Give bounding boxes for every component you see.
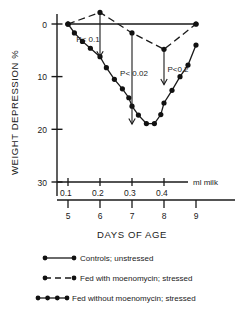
legend-item-with-moenomycin: Fed with moenomycin; stressed: [43, 274, 193, 283]
y-tick-label-0: 0: [42, 20, 47, 30]
milk-tick-label-0.1: 0.1: [60, 188, 72, 198]
milk-tick-label-0.3: 0.3: [124, 188, 136, 198]
pvalue-label-3: P<0.2: [167, 65, 189, 74]
data-point: [136, 113, 141, 118]
data-point: [112, 77, 117, 82]
data-point: [104, 65, 109, 70]
legend-marker-4: [65, 296, 70, 301]
pvalue-label-2: P< 0.02: [120, 69, 148, 78]
data-point: [120, 86, 125, 91]
x-axis-title: DAYS OF AGE: [97, 229, 167, 240]
pvalue-label-1: P< 0.1: [76, 35, 100, 44]
legend: Controls; unstressed Fed with moenomycin…: [36, 254, 196, 303]
legend-marker-3: [55, 296, 60, 301]
pvalue-connector-3: [161, 49, 167, 84]
legend-marker-2: [45, 296, 50, 301]
legend-item-controls: Controls; unstressed: [43, 254, 154, 263]
data-point: [65, 21, 70, 26]
milk-tick-label-0.4: 0.4: [156, 188, 168, 198]
data-point: [152, 121, 157, 126]
milk-tick-label-0.2: 0.2: [92, 188, 104, 198]
ml-milk-label: ml milk: [193, 178, 219, 187]
days-tick-label-5: 5: [66, 211, 71, 221]
legend-marker-end: [72, 276, 77, 281]
days-axis-ticks: [68, 200, 196, 208]
days-tick-label-9: 9: [194, 211, 199, 221]
legend-item-without-moenomycin: Fed without moenomycin; stressed: [36, 294, 196, 303]
days-tick-label-7: 7: [130, 211, 135, 221]
y-tick-label-10: 10: [38, 72, 48, 82]
weight-depression-figure: WEIGHT DEPRESSION % 0 10 20 30 0.1 0.2 0…: [0, 0, 252, 311]
data-point: [144, 121, 149, 126]
data-point: [193, 21, 198, 26]
y-axis-title: WEIGHT DEPRESSION %: [9, 50, 20, 175]
legend-marker-end: [72, 256, 77, 261]
data-point: [169, 88, 174, 93]
legend-marker-start: [43, 276, 48, 281]
y-tick-label-20: 20: [38, 125, 48, 135]
y-tick-label-30: 30: [38, 178, 48, 188]
data-point: [177, 74, 182, 79]
legend-label-with-moenomycin: Fed with moenomycin; stressed: [80, 274, 193, 283]
data-point: [193, 42, 198, 47]
data-point: [88, 46, 93, 51]
data-point: [161, 100, 166, 105]
legend-label-controls: Controls; unstressed: [80, 254, 153, 263]
legend-marker-start: [43, 256, 48, 261]
series-1: [65, 21, 198, 26]
days-tick-label-8: 8: [162, 211, 167, 221]
data-point: [126, 95, 131, 100]
days-tick-label-6: 6: [98, 211, 103, 221]
legend-label-without-moenomycin: Fed without moenomycin; stressed: [72, 294, 196, 303]
data-point: [158, 112, 163, 117]
legend-marker-1: [36, 296, 41, 301]
